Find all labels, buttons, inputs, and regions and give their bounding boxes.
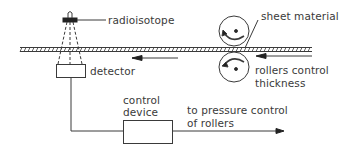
label-detector: detector bbox=[90, 65, 135, 77]
label-radioisotope: radioisotope bbox=[108, 14, 174, 26]
control-device-box bbox=[124, 121, 173, 144]
sheet-direction-arrow-right bbox=[256, 54, 312, 59]
label-output-line1: to pressure control bbox=[187, 104, 288, 116]
label-control-line2: device bbox=[123, 106, 158, 118]
detector-box bbox=[57, 65, 86, 78]
sheet-material bbox=[20, 48, 312, 52]
sheet-direction-arrow-left bbox=[132, 56, 178, 61]
label-rollers-line1: rollers control bbox=[255, 64, 329, 76]
label-sheet-material: sheet material bbox=[261, 10, 339, 22]
label-control-line1: control bbox=[123, 94, 160, 106]
radiation-beam bbox=[58, 22, 82, 64]
radioisotope-source-icon bbox=[63, 12, 106, 23]
upper-roller-icon bbox=[219, 16, 249, 46]
signal-line bbox=[71, 78, 123, 131]
diagram-canvas bbox=[0, 0, 362, 153]
lower-roller-icon bbox=[219, 52, 249, 82]
label-output-line2: of rollers bbox=[187, 117, 234, 129]
label-rollers-line2: thickness bbox=[255, 77, 306, 89]
